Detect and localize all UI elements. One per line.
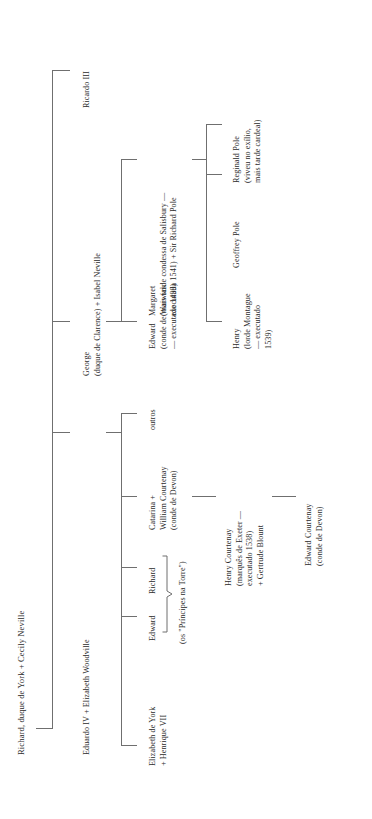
node-elizabeth-de-york: Elizabeth de York + Henrique VII — [148, 707, 169, 766]
node-george-line-1: George — [82, 253, 93, 376]
node-reginald-pole-line-2: (viveu no exílio, — [243, 120, 254, 183]
node-henry-courtenay: Henry Courtenay (marquês de Exeter — exe… — [224, 511, 267, 586]
node-henry-montague-line-4: 1539) — [264, 293, 275, 349]
node-henry-courtenay-line-4: + Gertrude Blount — [256, 511, 267, 586]
connector-to-henry-montague — [206, 321, 222, 322]
family-tree-diagram: Richard, duque de York + Cecily Neville … — [0, 0, 372, 819]
connector-to-reginald-pole — [206, 124, 222, 125]
node-richard-prince: Richard — [148, 568, 159, 594]
connector-to-richard-prince — [121, 567, 137, 568]
node-edward-warwick-line-3: — executado 1499) — [169, 283, 180, 349]
node-princes-in-the-tower-note: (os "Príncipes na Torre") — [178, 561, 189, 644]
node-henry-courtenay-line-1: Henry Courtenay — [224, 511, 235, 586]
connector-to-ricardo-iii — [52, 70, 70, 71]
node-catarina-line-2: William Courtenay — [159, 466, 170, 530]
node-geoffrey-pole: Geoffrey Pole — [232, 221, 243, 268]
node-ricardo-iii: Ricardo III — [82, 71, 93, 108]
root-node-label: Richard, duque de York + Cecily Neville — [16, 611, 27, 755]
connector-eduardo-iv-spine — [121, 413, 122, 746]
node-reginald-pole-line-1: Reginald Pole — [232, 120, 243, 183]
connector-henry-courtenay-stub — [272, 496, 296, 497]
node-edward-prince-line-1: Edward — [148, 615, 159, 641]
node-catarina-line-3: (conde de Devon) — [169, 466, 180, 530]
connector-to-george — [52, 321, 70, 322]
connector-catarina-stub — [192, 496, 216, 497]
connector-to-edward-warwick — [121, 321, 137, 322]
node-edward-courtenay-line-2: (conde de Devon) — [315, 503, 326, 566]
node-reginald-pole: Reginald Pole (viveu no exílio, mais tar… — [232, 120, 264, 183]
node-catarina-line-1: Catarina + — [148, 466, 159, 530]
node-edward-warwick-line-1: Edward — [148, 283, 159, 349]
node-henry-montague: Henry (lorde Montague — executado 1539) — [232, 293, 275, 349]
node-princes-note-line-1: (os "Príncipes na Torre") — [178, 561, 189, 644]
node-outros: outros — [148, 409, 159, 430]
node-henry-courtenay-line-2: (marquês de Exeter — — [235, 511, 246, 586]
node-edward-courtenay: Edward Courtenay (conde de Devon) — [304, 503, 325, 566]
connector-to-outros — [121, 413, 137, 414]
node-outros-line-1: outros — [148, 409, 159, 430]
node-henry-montague-line-2: (lorde Montague — [243, 293, 254, 349]
node-edward-warwick-line-2: (conde de Warwick — [159, 283, 170, 349]
connector-to-eduardo-iv — [52, 432, 70, 433]
node-elizabeth-de-york-line-2: + Henrique VII — [159, 707, 170, 766]
node-henry-montague-line-1: Henry — [232, 293, 243, 349]
node-henry-courtenay-line-3: executado 1538) — [245, 511, 256, 586]
node-george-line-2: (duque de Clarence) + Isabel Neville — [93, 253, 104, 376]
connector-to-catarina — [121, 496, 137, 497]
connector-to-edward-prince — [121, 616, 137, 617]
node-geoffrey-pole-line-1: Geoffrey Pole — [232, 221, 243, 268]
connector-to-elizabeth-de-york — [121, 745, 137, 746]
connector-to-margaret — [121, 159, 137, 160]
connector-to-geoffrey-pole — [206, 174, 222, 175]
princes-brace-icon — [161, 555, 174, 633]
connector-root-stub — [36, 728, 53, 729]
node-henry-montague-line-3: — executado — [253, 293, 264, 349]
connector-margaret-stub — [192, 159, 207, 160]
connector-gen2-spine — [52, 70, 53, 729]
node-eduardo-iv-line-1: Eduardo IV + Elizabeth Woodville — [82, 639, 93, 755]
connector-pole-spine — [206, 124, 207, 321]
root-node-line-1: Richard, duque de York + Cecily Neville — [16, 611, 27, 755]
node-george-clarence: George (duque de Clarence) + Isabel Nevi… — [82, 253, 103, 376]
node-richard-prince-line-1: Richard — [148, 568, 159, 594]
node-ricardo-iii-line-1: Ricardo III — [82, 71, 93, 108]
node-edward-warwick: Edward (conde de Warwick — executado 149… — [148, 283, 180, 349]
connector-george-stub — [106, 321, 122, 322]
node-catarina-courtenay: Catarina + William Courtenay (conde de D… — [148, 466, 180, 530]
connector-eduardo-iv-stub — [106, 432, 122, 433]
node-eduardo-iv: Eduardo IV + Elizabeth Woodville — [82, 639, 93, 755]
node-edward-prince: Edward — [148, 615, 159, 641]
node-elizabeth-de-york-line-1: Elizabeth de York — [148, 707, 159, 766]
connector-clarence-spine — [121, 159, 122, 322]
node-edward-courtenay-line-1: Edward Courtenay — [304, 503, 315, 566]
node-reginald-pole-line-3: mais tarde cardeal) — [253, 120, 264, 183]
